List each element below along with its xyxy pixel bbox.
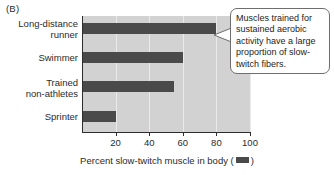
x-axis-title-suffix: ) [251,155,254,166]
x-axis-title: Percent slow-twitch muscle in body () [0,155,334,166]
x-axis-tick [116,133,117,136]
x-axis-tick [149,133,150,136]
bar [83,23,216,34]
bar [83,111,116,122]
x-axis-tick-label: 20 [110,137,121,148]
category-label: Sprinter [45,111,78,122]
bar-chart: (B) Long-distance runnerSwimmerTrained n… [0,0,334,175]
x-axis-tick-label: 60 [178,137,189,148]
x-axis-line [82,132,251,133]
category-label: Trained non-athletes [26,77,78,99]
x-axis-tick-label: 100 [242,137,258,148]
x-axis-tick [250,133,251,136]
x-axis-tick [183,133,184,136]
category-label: Swimmer [38,52,78,63]
bar [83,52,183,63]
x-axis-tick [216,133,217,136]
x-axis-title-prefix: Percent slow-twitch muscle in body ( [80,155,234,166]
bar [83,81,174,92]
panel-label: (B) [6,3,19,14]
callout-annotation: Muscles trained for sustained aerobic ac… [230,8,330,74]
x-axis-tick-label: 40 [144,137,155,148]
category-label: Long-distance runner [18,18,78,40]
callout-text: Muscles trained for sustained aerobic ac… [236,13,316,69]
legend-swatch-icon [236,157,249,163]
x-axis-tick-label: 80 [211,137,222,148]
